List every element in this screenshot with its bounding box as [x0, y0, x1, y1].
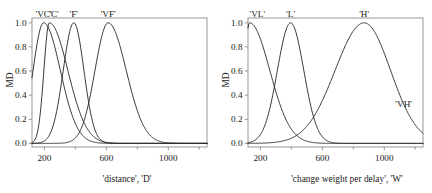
y-tick-label: 0.8	[15, 42, 27, 52]
x-axis-tick-labels-left: 2006001000	[37, 153, 177, 163]
curve-labels-right: 'VL''L''H''VH'	[250, 9, 413, 109]
y-axis-ticks-right	[245, 23, 248, 144]
x-tick-label: 600	[315, 153, 329, 163]
x-tick-label: 200	[37, 153, 51, 163]
plot-frame-right	[248, 18, 423, 147]
y-axis-ticks-left	[29, 23, 32, 144]
y-axis-label-left: MD	[5, 72, 15, 87]
x-axis-label-right: 'change weight per delay', 'W'	[291, 174, 403, 184]
chart-panel-change-weight: 0.00.20.40.60.81.0 MD 'VL''L''H''VH' 200…	[216, 0, 432, 193]
x-axis-label-left: 'distance', 'D'	[103, 174, 152, 184]
y-tick-label: 0.2	[231, 114, 243, 124]
y-tick-label: 0.0	[15, 138, 27, 148]
x-tick-label: 1000	[159, 153, 178, 163]
curve-label-C: 'C'	[49, 9, 59, 19]
y-tick-label: 0.8	[231, 42, 243, 52]
y-tick-label: 1.0	[15, 18, 27, 28]
chart-panel-distance: 0.00.20.40.60.81.0 MD 'VC''C''F''VF' 200…	[0, 0, 216, 193]
curve-label-VH: 'VH'	[395, 99, 412, 109]
x-tick-label: 600	[99, 153, 113, 163]
y-axis-tick-labels-right: 0.00.20.40.60.81.0	[231, 18, 243, 149]
curve-VF	[32, 23, 207, 144]
curve-labels-left: 'VC''C''F''VF'	[36, 9, 116, 19]
curve-group-left	[32, 23, 207, 144]
chart-canvas-right: 0.00.20.40.60.81.0 MD 'VL''L''H''VH' 200…	[216, 0, 432, 193]
y-tick-label: 1.0	[231, 18, 243, 28]
curve-label-H: 'H'	[359, 9, 369, 19]
y-axis-tick-labels-left: 0.00.20.40.60.81.0	[15, 18, 27, 149]
x-tick-label: 200	[253, 153, 267, 163]
curve-label-L: 'L'	[286, 9, 295, 19]
curve-H	[248, 23, 423, 144]
curve-F	[32, 23, 207, 144]
curve-VL	[248, 23, 423, 144]
curve-label-VL: 'VL'	[250, 9, 266, 19]
x-tick-label: 1000	[375, 153, 394, 163]
y-tick-label: 0.6	[231, 66, 243, 76]
curve-label-VF: 'VF'	[101, 9, 116, 19]
curve-VC	[32, 23, 207, 144]
x-axis-tick-labels-right: 2006001000	[253, 153, 393, 163]
y-tick-label: 0.4	[231, 90, 243, 100]
chart-canvas-left: 0.00.20.40.60.81.0 MD 'VC''C''F''VF' 200…	[0, 0, 216, 193]
y-tick-label: 0.6	[15, 66, 27, 76]
y-tick-label: 0.0	[231, 138, 243, 148]
y-tick-label: 0.4	[15, 90, 27, 100]
curve-C	[32, 23, 207, 144]
fuzzy-membership-figure: 0.00.20.40.60.81.0 MD 'VC''C''F''VF' 200…	[0, 0, 432, 193]
y-axis-label-right: MD	[221, 72, 231, 87]
x-axis-ticks-left	[44, 147, 199, 150]
y-tick-label: 0.2	[15, 114, 27, 124]
curve-group-right	[248, 23, 423, 144]
curve-L	[248, 23, 423, 144]
x-axis-ticks-right	[260, 147, 415, 150]
curve-label-F: 'F'	[70, 9, 79, 19]
